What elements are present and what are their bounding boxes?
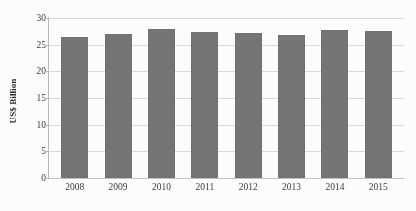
x-axis-tick-label: 2010 xyxy=(140,182,183,202)
bar-slot xyxy=(183,18,226,178)
x-axis-tick-label: 2011 xyxy=(183,182,226,202)
y-axis-tick-label: 5 xyxy=(22,146,46,156)
bar-slot xyxy=(96,18,139,178)
bar-2012[interactable] xyxy=(235,33,262,178)
gridline-0 xyxy=(49,178,404,179)
y-axis-tick-label: 15 xyxy=(22,93,46,103)
bar-slot xyxy=(53,18,96,178)
bar-slot xyxy=(270,18,313,178)
bar-series xyxy=(49,18,404,178)
bar-2013[interactable] xyxy=(278,35,305,178)
x-axis-tick-label: 2014 xyxy=(313,182,356,202)
bar-slot xyxy=(227,18,270,178)
y-axis-tick-mark xyxy=(44,178,49,179)
bar-2015[interactable] xyxy=(365,31,392,178)
x-axis-tick-labels: 20082009201020112012201320142015 xyxy=(49,182,404,202)
bar-slot xyxy=(313,18,356,178)
bar-2011[interactable] xyxy=(191,32,218,178)
bar-2010[interactable] xyxy=(148,29,175,178)
y-axis-title-label: US$ Billion xyxy=(8,26,18,176)
plot-area xyxy=(49,18,404,178)
y-axis-tick-label: 20 xyxy=(22,66,46,76)
x-axis-tick-label: 2013 xyxy=(270,182,313,202)
y-axis-tick-labels: 051015202530 xyxy=(22,0,46,211)
bar-2008[interactable] xyxy=(61,37,88,178)
bar-chart-figure: US$ Billion 051015202530 200820092010201… xyxy=(0,0,416,211)
bar-slot xyxy=(357,18,400,178)
x-axis-tick-label: 2008 xyxy=(53,182,96,202)
y-axis-tick-label: 10 xyxy=(22,120,46,130)
bar-slot xyxy=(140,18,183,178)
bar-2009[interactable] xyxy=(105,34,132,178)
y-axis-tick-label: 30 xyxy=(22,13,46,23)
x-axis-tick-label: 2015 xyxy=(357,182,400,202)
y-axis-tick-label: 25 xyxy=(22,40,46,50)
y-axis-tick-label: 0 xyxy=(22,173,46,183)
x-axis-tick-label: 2012 xyxy=(227,182,270,202)
bar-2014[interactable] xyxy=(321,30,348,178)
x-axis-tick-label: 2009 xyxy=(96,182,139,202)
